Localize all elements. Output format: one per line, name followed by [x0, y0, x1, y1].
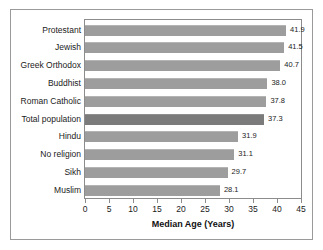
x-axis: 051015202530354045 Median Age (Years) — [84, 199, 302, 239]
bar — [85, 96, 266, 107]
bar-row: Protestant41.9 — [85, 22, 301, 40]
x-tick-label: 10 — [128, 204, 137, 214]
bar — [85, 149, 234, 160]
bar — [85, 167, 228, 178]
category-label: Buddhist — [48, 76, 81, 90]
x-tick-label: 40 — [272, 204, 281, 214]
bar-row: Total population37.3 — [85, 111, 301, 129]
x-tick-mark — [301, 199, 302, 203]
bar — [85, 78, 267, 89]
bar — [85, 185, 220, 196]
bar-row: Roman Catholic37.8 — [85, 93, 301, 111]
x-tick-label: 30 — [224, 204, 233, 214]
bar — [85, 60, 280, 71]
x-tick-mark — [85, 199, 86, 203]
x-tick-label: 0 — [83, 204, 88, 214]
bar-row: Buddhist38.0 — [85, 75, 301, 93]
x-tick-label: 25 — [200, 204, 209, 214]
x-tick-mark — [181, 199, 182, 203]
bar — [85, 114, 264, 125]
x-tick-mark — [277, 199, 278, 203]
x-axis-title: Median Age (Years) — [84, 219, 302, 229]
bar-series: Protestant41.9Jewish41.5Greek Orthodox40… — [85, 20, 301, 198]
bar-row: Muslim28.1 — [85, 182, 301, 200]
bar-value-label: 29.7 — [232, 165, 247, 179]
category-label: Protestant — [42, 23, 81, 37]
bar — [85, 131, 238, 142]
x-tick-label: 20 — [176, 204, 185, 214]
category-label: Muslim — [54, 183, 81, 197]
x-tick-mark — [253, 199, 254, 203]
x-tick-label: 15 — [152, 204, 161, 214]
x-tick-mark — [133, 199, 134, 203]
category-label: Greek Orthodox — [21, 58, 81, 72]
x-tick-label: 35 — [248, 204, 257, 214]
bar-row: Sikh29.7 — [85, 164, 301, 182]
category-label: Sikh — [64, 165, 81, 179]
category-label: Hindu — [59, 129, 81, 143]
plot-area: Protestant41.9Jewish41.5Greek Orthodox40… — [84, 19, 302, 199]
bar-row: Hindu31.9 — [85, 128, 301, 146]
x-tick-label: 45 — [296, 204, 305, 214]
x-tick-mark — [205, 199, 206, 203]
bar-value-label: 31.9 — [242, 129, 257, 143]
bar-row: Greek Orthodox40.7 — [85, 57, 301, 75]
category-label: Jewish — [55, 40, 81, 54]
bar-value-label: 28.1 — [224, 183, 239, 197]
bar-value-label: 37.3 — [268, 112, 283, 126]
x-tick-mark — [157, 199, 158, 203]
category-label: Roman Catholic — [21, 94, 81, 108]
bar-value-label: 38.0 — [271, 76, 286, 90]
bar-value-label: 40.7 — [284, 58, 299, 72]
bar-value-label: 41.9 — [290, 23, 305, 37]
category-label: No religion — [40, 147, 81, 161]
bar-value-label: 31.1 — [238, 147, 253, 161]
chart-figure: Protestant41.9Jewish41.5Greek Orthodox40… — [10, 9, 313, 240]
category-label: Total population — [21, 112, 81, 126]
bar-value-label: 41.5 — [288, 40, 303, 54]
bar-row: Jewish41.5 — [85, 39, 301, 57]
bar-value-label: 37.8 — [270, 94, 285, 108]
bar — [85, 42, 284, 53]
bar — [85, 25, 286, 36]
x-tick-mark — [229, 199, 230, 203]
bar-row: No religion31.1 — [85, 146, 301, 164]
x-tick-label: 5 — [107, 204, 112, 214]
x-tick-mark — [109, 199, 110, 203]
